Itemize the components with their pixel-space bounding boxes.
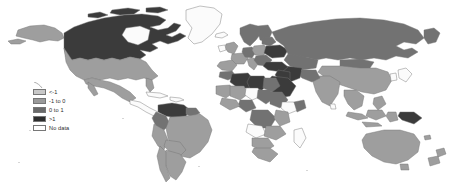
region-hispaniola bbox=[170, 97, 184, 102]
legend-swatch-no-data bbox=[33, 125, 46, 131]
region-new-zealand-north bbox=[436, 148, 446, 157]
region-madagascar bbox=[294, 128, 306, 148]
legend-swatch-gt-1 bbox=[33, 116, 46, 122]
legend-swatch-minus1-to-0 bbox=[33, 98, 46, 104]
region-central-america bbox=[130, 100, 158, 116]
legend-item-lt-minus1: <-1 bbox=[33, 88, 89, 96]
legend-label-0-to-1: 0 to 1 bbox=[49, 107, 64, 113]
region-indonesia-borneo bbox=[366, 110, 386, 120]
region-ireland bbox=[218, 45, 226, 52]
region-west-africa-coast bbox=[220, 98, 240, 110]
region-indonesia-java bbox=[362, 122, 382, 127]
region-new-caledonia bbox=[424, 135, 431, 140]
region-baltics bbox=[262, 37, 276, 46]
region-canada-arctic-3 bbox=[88, 12, 108, 18]
region-australia bbox=[362, 130, 420, 164]
legend-label-lt-minus1: <-1 bbox=[49, 89, 58, 95]
legend-item-minus1-to-0: -1 to 0 bbox=[33, 97, 89, 105]
legend-swatch-0-to-1 bbox=[33, 107, 46, 113]
region-indonesia-sumatra bbox=[346, 112, 368, 120]
region-indonesia-sulawesi bbox=[386, 112, 398, 122]
region-russia bbox=[272, 18, 424, 60]
legend-item-0-to-1: 0 to 1 bbox=[33, 106, 89, 114]
scan-artifact bbox=[18, 162, 20, 163]
scan-artifact bbox=[122, 118, 124, 119]
region-japan bbox=[398, 68, 412, 82]
region-canada-arctic-1 bbox=[110, 8, 140, 15]
legend-label-gt-1: >1 bbox=[49, 116, 56, 122]
region-canada-arctic-2 bbox=[146, 7, 168, 13]
region-greenland bbox=[186, 6, 222, 44]
region-sri-lanka bbox=[330, 104, 336, 109]
region-philippines bbox=[373, 96, 386, 110]
scan-artifact bbox=[306, 170, 308, 171]
region-aleutians bbox=[8, 39, 26, 44]
region-alaska bbox=[16, 25, 64, 42]
map-legend: <-1 -1 to 0 0 to 1 >1 No data bbox=[33, 88, 89, 133]
region-florida bbox=[146, 78, 154, 92]
scan-artifact bbox=[29, 130, 31, 131]
region-new-zealand-south bbox=[428, 156, 440, 166]
legend-label-no-data: No data bbox=[49, 125, 69, 131]
legend-label-minus1-to-0: -1 to 0 bbox=[49, 98, 66, 104]
region-india bbox=[313, 76, 340, 106]
region-kamchatka bbox=[424, 28, 440, 44]
region-south-africa bbox=[252, 148, 278, 162]
region-iceland bbox=[215, 32, 228, 38]
region-korea bbox=[390, 73, 397, 81]
region-tasmania bbox=[400, 164, 409, 170]
legend-item-gt-1: >1 bbox=[33, 115, 89, 123]
legend-item-no-data: No data bbox=[33, 124, 89, 132]
region-southeast-asia bbox=[344, 90, 364, 110]
region-kenya-tanzania bbox=[274, 110, 290, 126]
region-united-kingdom bbox=[225, 42, 238, 54]
world-choropleth-figure: <-1 -1 to 0 0 to 1 >1 No data bbox=[0, 0, 460, 193]
region-papua-new-guinea bbox=[398, 112, 422, 124]
scan-artifact bbox=[198, 166, 200, 167]
legend-swatch-lt-minus1 bbox=[33, 89, 46, 95]
region-cuba bbox=[146, 92, 168, 98]
